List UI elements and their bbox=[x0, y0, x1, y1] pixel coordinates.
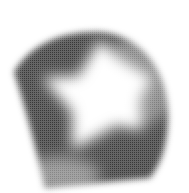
star-disc-graphic bbox=[0, 0, 189, 193]
halftone-star-figure bbox=[0, 0, 189, 193]
